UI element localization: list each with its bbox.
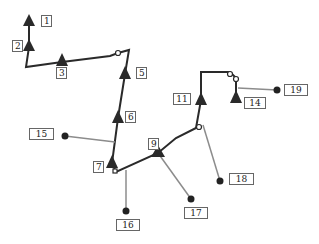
node-label-1: 1: [41, 15, 52, 27]
node-label-2: 2: [12, 40, 23, 52]
node-label-5: 5: [136, 67, 147, 79]
node-label-19: 19: [284, 84, 308, 96]
node-label-14: 14: [244, 97, 266, 109]
node-label-15: 15: [29, 128, 54, 140]
main-pipeline: [26, 22, 236, 172]
node-label-6: 6: [125, 111, 136, 123]
node-label-18: 18: [229, 173, 254, 185]
diagram-canvas: [0, 0, 319, 244]
node-label-9: 9: [148, 138, 159, 150]
node-label-11: 11: [173, 93, 191, 105]
node-label-17: 17: [184, 207, 208, 219]
node-label-16: 16: [116, 219, 140, 231]
network-diagram: 1 2 3 5 6 7 9 11 14 15 16 17 18 19: [0, 0, 319, 244]
node-label-7: 7: [93, 161, 104, 173]
node-label-3: 3: [56, 67, 67, 79]
